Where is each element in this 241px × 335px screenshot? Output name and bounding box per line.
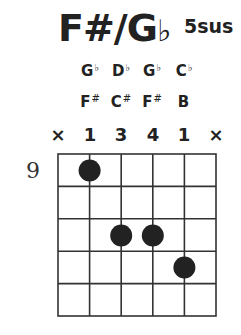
finger-dot <box>142 225 164 247</box>
finger-dot <box>110 225 132 247</box>
finger-dot <box>173 257 195 279</box>
grid-lines <box>58 154 216 316</box>
finger-dot <box>79 160 101 182</box>
fretboard-grid <box>0 0 241 335</box>
